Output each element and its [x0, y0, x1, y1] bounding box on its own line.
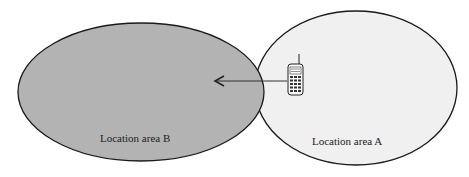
location-area-a-label: Location area A [312, 135, 382, 147]
location-area-b-label: Location area B [100, 132, 170, 144]
location-area-diagram: Location area B Location area A [0, 0, 469, 177]
